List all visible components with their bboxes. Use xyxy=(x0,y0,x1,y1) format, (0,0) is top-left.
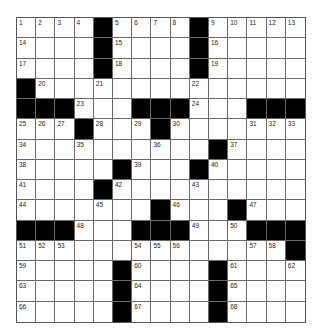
grid-cell[interactable] xyxy=(228,180,247,200)
grid-cell[interactable] xyxy=(267,160,286,180)
grid-cell[interactable] xyxy=(190,302,209,322)
grid-cell[interactable] xyxy=(132,59,151,79)
grid-cell[interactable]: 36 xyxy=(151,140,170,160)
grid-cell[interactable] xyxy=(36,160,55,180)
grid-cell[interactable]: 20 xyxy=(36,79,55,99)
grid-cell[interactable] xyxy=(247,180,266,200)
grid-cell[interactable] xyxy=(286,200,305,220)
grid-cell[interactable] xyxy=(55,261,74,281)
grid-cell[interactable] xyxy=(113,200,132,220)
grid-cell[interactable]: 50 xyxy=(228,221,247,241)
grid-cell[interactable]: 19 xyxy=(209,59,228,79)
grid-cell[interactable] xyxy=(75,302,94,322)
grid-cell[interactable] xyxy=(209,200,228,220)
grid-cell[interactable]: 27 xyxy=(55,119,74,139)
grid-cell[interactable] xyxy=(209,241,228,261)
grid-cell[interactable]: 30 xyxy=(171,119,190,139)
grid-cell[interactable] xyxy=(94,140,113,160)
grid-cell[interactable] xyxy=(267,281,286,301)
grid-cell[interactable] xyxy=(132,140,151,160)
grid-cell[interactable] xyxy=(75,160,94,180)
grid-cell[interactable] xyxy=(75,281,94,301)
grid-cell[interactable]: 41 xyxy=(17,180,36,200)
grid-cell[interactable] xyxy=(267,200,286,220)
grid-cell[interactable]: 35 xyxy=(75,140,94,160)
grid-cell[interactable] xyxy=(151,38,170,58)
grid-cell[interactable]: 60 xyxy=(132,261,151,281)
grid-cell[interactable]: 52 xyxy=(36,241,55,261)
grid-cell[interactable] xyxy=(75,241,94,261)
grid-cell[interactable] xyxy=(113,221,132,241)
grid-cell[interactable] xyxy=(209,119,228,139)
grid-cell[interactable]: 11 xyxy=(247,18,266,38)
grid-cell[interactable]: 42 xyxy=(113,180,132,200)
grid-cell[interactable]: 37 xyxy=(228,140,247,160)
grid-cell[interactable] xyxy=(209,79,228,99)
grid-cell[interactable]: 14 xyxy=(17,38,36,58)
grid-cell[interactable]: 39 xyxy=(132,160,151,180)
grid-cell[interactable] xyxy=(55,79,74,99)
grid-cell[interactable] xyxy=(94,302,113,322)
grid-cell[interactable] xyxy=(247,160,266,180)
grid-cell[interactable] xyxy=(36,261,55,281)
grid-cell[interactable] xyxy=(267,140,286,160)
grid-cell[interactable]: 12 xyxy=(267,18,286,38)
grid-cell[interactable]: 2 xyxy=(36,18,55,38)
grid-cell[interactable] xyxy=(286,281,305,301)
grid-cell[interactable] xyxy=(267,302,286,322)
grid-cell[interactable] xyxy=(171,261,190,281)
grid-cell[interactable]: 53 xyxy=(55,241,74,261)
grid-cell[interactable] xyxy=(171,180,190,200)
grid-cell[interactable] xyxy=(36,140,55,160)
grid-cell[interactable]: 59 xyxy=(17,261,36,281)
grid-cell[interactable]: 56 xyxy=(171,241,190,261)
grid-cell[interactable] xyxy=(228,119,247,139)
grid-cell[interactable]: 3 xyxy=(55,18,74,38)
grid-cell[interactable] xyxy=(286,302,305,322)
grid-cell[interactable]: 10 xyxy=(228,18,247,38)
grid-cell[interactable] xyxy=(132,200,151,220)
grid-cell[interactable] xyxy=(55,281,74,301)
grid-cell[interactable] xyxy=(55,38,74,58)
grid-cell[interactable] xyxy=(247,281,266,301)
grid-cell[interactable] xyxy=(151,160,170,180)
grid-cell[interactable] xyxy=(75,79,94,99)
grid-cell[interactable] xyxy=(171,79,190,99)
grid-cell[interactable] xyxy=(75,180,94,200)
grid-cell[interactable]: 5 xyxy=(113,18,132,38)
grid-cell[interactable]: 23 xyxy=(75,99,94,119)
grid-cell[interactable]: 62 xyxy=(286,261,305,281)
grid-cell[interactable] xyxy=(171,59,190,79)
grid-cell[interactable]: 31 xyxy=(247,119,266,139)
grid-cell[interactable] xyxy=(94,241,113,261)
grid-cell[interactable] xyxy=(247,38,266,58)
grid-cell[interactable] xyxy=(286,59,305,79)
grid-cell[interactable] xyxy=(94,221,113,241)
grid-cell[interactable]: 16 xyxy=(209,38,228,58)
grid-cell[interactable] xyxy=(267,59,286,79)
grid-cell[interactable] xyxy=(55,200,74,220)
grid-cell[interactable] xyxy=(151,261,170,281)
grid-cell[interactable] xyxy=(94,99,113,119)
grid-cell[interactable]: 8 xyxy=(171,18,190,38)
grid-cell[interactable] xyxy=(113,241,132,261)
grid-cell[interactable] xyxy=(190,200,209,220)
grid-cell[interactable] xyxy=(36,281,55,301)
grid-cell[interactable]: 63 xyxy=(17,281,36,301)
grid-cell[interactable] xyxy=(247,59,266,79)
grid-cell[interactable]: 21 xyxy=(94,79,113,99)
grid-cell[interactable]: 15 xyxy=(113,38,132,58)
grid-cell[interactable] xyxy=(94,160,113,180)
grid-cell[interactable] xyxy=(228,79,247,99)
grid-cell[interactable] xyxy=(190,119,209,139)
grid-cell[interactable] xyxy=(190,140,209,160)
grid-cell[interactable] xyxy=(132,79,151,99)
grid-cell[interactable] xyxy=(190,261,209,281)
grid-cell[interactable] xyxy=(228,99,247,119)
grid-cell[interactable] xyxy=(228,241,247,261)
grid-cell[interactable] xyxy=(113,119,132,139)
grid-cell[interactable]: 57 xyxy=(247,241,266,261)
grid-cell[interactable] xyxy=(36,180,55,200)
grid-cell[interactable] xyxy=(75,200,94,220)
grid-cell[interactable]: 26 xyxy=(36,119,55,139)
